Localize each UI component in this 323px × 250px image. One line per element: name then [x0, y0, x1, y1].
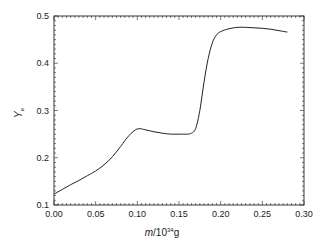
- y-tick-label: 0.4: [36, 58, 49, 68]
- data-line: [54, 27, 287, 194]
- x-tick-label: 0.20: [212, 209, 230, 219]
- x-tick-label: 0.25: [254, 209, 272, 219]
- y-tick-label: 0.5: [36, 11, 49, 21]
- major-ticks: [54, 16, 304, 205]
- x-tick-label: 0.05: [87, 209, 105, 219]
- y-tick-label: 0.2: [36, 153, 49, 163]
- y-tick-labels: 0.10.20.30.40.5: [36, 11, 49, 210]
- y-tick-label: 0.3: [36, 106, 49, 116]
- x-tick-label: 0.15: [170, 209, 188, 219]
- x-tick-label: 0.30: [295, 209, 313, 219]
- y-axis-label: Ye: [13, 107, 25, 118]
- x-tick-labels: 0.000.050.100.150.200.250.30: [45, 209, 313, 219]
- y-tick-label: 0.1: [36, 200, 49, 210]
- x-tick-label: 0.00: [45, 209, 63, 219]
- minor-ticks: [54, 16, 304, 205]
- line-chart: 0.000.050.100.150.200.250.30 0.10.20.30.…: [0, 0, 323, 250]
- x-axis-label: m/1034g: [145, 227, 180, 238]
- plot-frame: [54, 16, 304, 205]
- x-tick-label: 0.10: [129, 209, 147, 219]
